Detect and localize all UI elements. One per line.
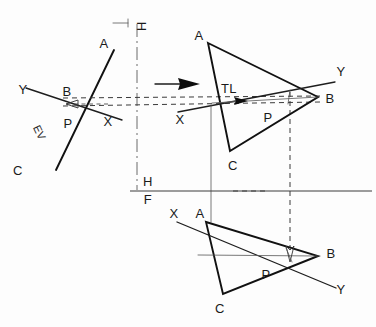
auxiliary-view-group: A B C P X Y EV: [13, 36, 122, 178]
top-label-p: P: [263, 110, 272, 125]
transfer-line-lower: [63, 102, 320, 106]
hf-fold-line-group: H F: [130, 174, 372, 207]
auxiliary-fold-line-group: H: [113, 19, 149, 190]
aux-fold-label-h: H: [134, 21, 149, 31]
sight-arrow-head: [178, 78, 200, 90]
descriptive-geometry-drawing: A B C P X Y EV H: [0, 0, 376, 327]
top-label-x: X: [175, 112, 184, 127]
aux-label-y: Y: [18, 82, 27, 97]
sight-direction-arrow-group: [155, 78, 200, 90]
fold-label-f: F: [144, 192, 152, 207]
transfer-line-upper: [63, 96, 320, 98]
top-label-a: A: [194, 28, 203, 43]
aux-edge-view-line-ac: [56, 50, 114, 170]
top-view-group: A B C P X Y TL: [175, 28, 345, 222]
front-label-a: A: [195, 206, 204, 221]
aux-label-c: C: [13, 163, 23, 178]
projection-lines-group: [63, 92, 320, 248]
aux-label-a: A: [99, 36, 108, 51]
front-label-y: Y: [336, 282, 345, 297]
top-label-y: Y: [336, 64, 345, 79]
top-label-b: B: [325, 91, 334, 106]
top-view-triangle-abc: [208, 43, 318, 151]
aux-label-x: X: [103, 114, 112, 129]
aux-label-ev: EV: [31, 123, 49, 142]
front-p-tick: [286, 248, 292, 262]
front-label-b: B: [326, 246, 335, 261]
front-label-p: P: [261, 267, 270, 282]
front-label-x: X: [169, 206, 178, 221]
aux-label-p: P: [63, 116, 72, 131]
drawing-sheet: A B C P X Y EV H: [0, 0, 376, 327]
fold-label-h: H: [143, 174, 153, 189]
tl-arrow-head: [234, 97, 248, 105]
aux-label-b: B: [62, 84, 71, 99]
front-view-group: A B C P X Y: [169, 206, 345, 316]
front-label-c: C: [215, 301, 225, 316]
top-label-c: C: [228, 158, 238, 173]
top-label-tl: TL: [221, 81, 237, 96]
front-horizontal-construction: [198, 255, 318, 256]
